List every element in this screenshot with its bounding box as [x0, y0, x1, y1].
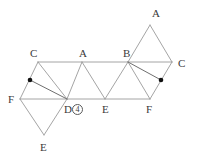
geometry-figure-canvas: CABCAFEFE D4	[0, 0, 198, 159]
midpoint-dot-left	[28, 78, 33, 83]
vertex-label-d-with-circled-four: D4	[64, 104, 83, 115]
midpoint-dot-right	[159, 78, 164, 83]
vertex-label-c-right: C	[178, 58, 186, 69]
edge-f-left-to-e-apex	[20, 99, 44, 135]
edge-a-mid-to-e	[82, 62, 105, 99]
edge-c-left-to-d	[38, 62, 67, 99]
vertex-label-f-right: F	[146, 104, 152, 115]
vertex-label-a-apex: A	[152, 8, 160, 19]
vertex-label-e-bottom-mid: E	[102, 104, 109, 115]
vertex-label-a-top-mid: A	[79, 48, 87, 59]
edge-dot-left-to-d	[30, 80, 67, 99]
vertex-label-e-apex: E	[40, 142, 47, 153]
vertex-label-b-top: B	[123, 48, 131, 59]
edges-group	[20, 25, 172, 135]
geometry-net-diagram	[0, 0, 198, 159]
vertex-label-f-left: F	[8, 94, 14, 105]
vertex-label-c-left: C	[30, 48, 38, 59]
circled-number-four: 4	[72, 104, 83, 115]
edge-a-mid-to-d	[67, 62, 82, 99]
edge-a-apex-to-c	[150, 25, 172, 62]
edge-b-to-e	[105, 62, 128, 99]
d-letter: D	[64, 103, 72, 115]
midpoint-dots-group	[28, 78, 164, 83]
edge-b-to-a-apex	[128, 25, 150, 62]
